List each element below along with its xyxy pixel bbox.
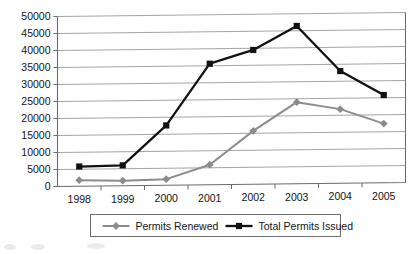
- y-axis-label: 10000: [21, 146, 50, 158]
- data-point-marker: [120, 162, 126, 168]
- legend-label: Permits Renewed: [136, 220, 219, 232]
- x-axis-label: 2002: [242, 191, 266, 203]
- y-axis-label: 0: [45, 180, 51, 192]
- x-axis-label: 1999: [111, 193, 135, 205]
- data-point-marker: [207, 61, 213, 67]
- x-axis-label: 2005: [372, 190, 396, 202]
- y-axis-label: 25000: [21, 95, 50, 107]
- y-axis-label: 15000: [21, 129, 50, 141]
- chart-legend: Permits RenewedTotal Permits Issued: [91, 215, 354, 237]
- x-axis-label: 2000: [155, 192, 179, 204]
- y-axis-label: 20000: [21, 112, 50, 124]
- data-point-marker: [337, 68, 343, 74]
- data-point-marker: [250, 47, 256, 53]
- x-axis-label: 2004: [329, 190, 353, 202]
- chart-canvas: 0500010000150002000025000300003500040000…: [0, 0, 418, 254]
- y-axis-label: 40000: [21, 44, 50, 56]
- legend-label: Total Permits Issued: [259, 220, 354, 232]
- data-point-marker: [381, 92, 387, 98]
- data-point-marker: [163, 122, 169, 128]
- data-point-marker: [236, 223, 242, 229]
- x-axis-label: 1998: [68, 193, 92, 205]
- y-axis-label: 5000: [27, 163, 51, 175]
- x-axis-label: 2003: [285, 191, 309, 203]
- y-axis-label: 50000: [21, 10, 50, 22]
- data-point-marker: [294, 23, 300, 29]
- data-point-marker: [76, 163, 82, 169]
- y-axis-label: 30000: [21, 78, 50, 90]
- y-axis-label: 45000: [21, 27, 50, 39]
- y-axis-label: 35000: [21, 61, 50, 73]
- line-chart: 0500010000150002000025000300003500040000…: [0, 0, 418, 254]
- x-axis-label: 2001: [198, 192, 222, 204]
